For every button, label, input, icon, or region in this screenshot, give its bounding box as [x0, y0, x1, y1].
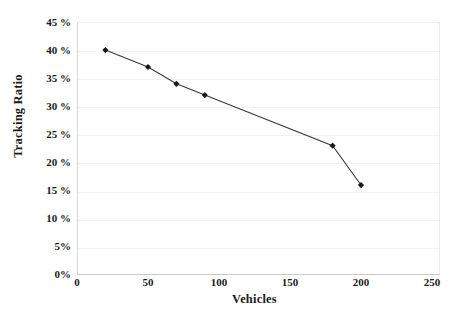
data-point [202, 92, 208, 98]
data-point [173, 81, 179, 87]
data-point [102, 47, 108, 53]
series-markers [102, 47, 364, 188]
data-series-layer [0, 0, 471, 322]
line-chart: Tracking Ratio 45 % 40 % 35 % 30 % 25 % … [0, 0, 471, 322]
series-line [105, 50, 361, 185]
data-point [145, 64, 151, 70]
